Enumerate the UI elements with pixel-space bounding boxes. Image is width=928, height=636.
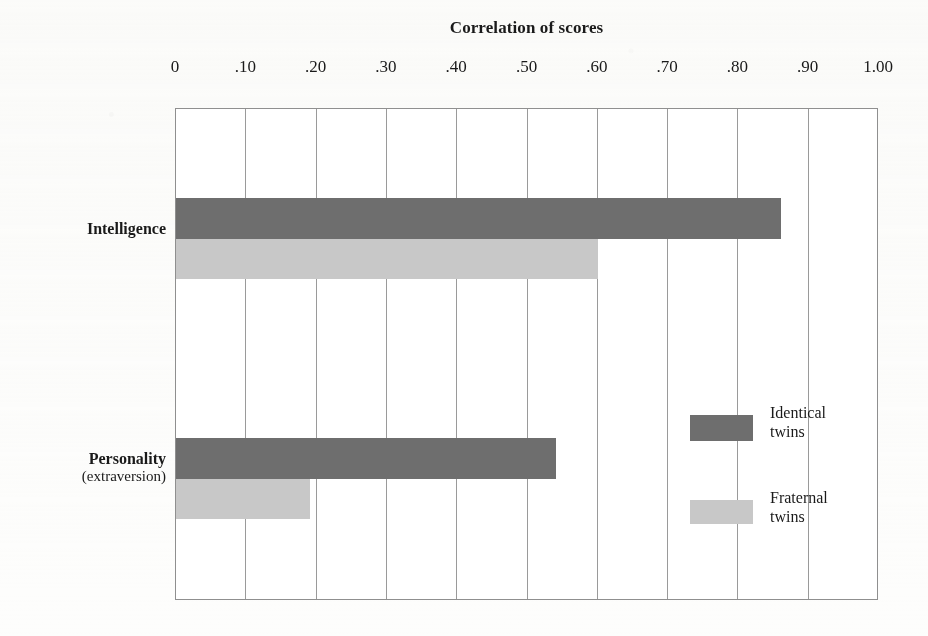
category-label-main: Personality <box>82 450 166 468</box>
legend-label-line2: twins <box>770 423 805 440</box>
bar-identical-personality <box>176 438 556 479</box>
x-tick-label-p70: .70 <box>656 56 677 78</box>
x-tick-label-p50: .50 <box>516 56 537 78</box>
gridline-p10 <box>245 109 246 599</box>
chart-title: Correlation of scores <box>175 18 878 38</box>
category-label-intelligence: Intelligence <box>87 220 166 238</box>
x-tick-label-p10: .10 <box>235 56 256 78</box>
x-tick-label-p60: .60 <box>586 56 607 78</box>
x-tick-label-p20: .20 <box>305 56 326 78</box>
legend-swatch-identical <box>690 415 753 441</box>
gridline-p30 <box>386 109 387 599</box>
gridline-p60 <box>597 109 598 599</box>
gridline-p40 <box>456 109 457 599</box>
bar-fraternal-intelligence <box>176 239 598 279</box>
x-axis-tick-labels: 0.10.20.30.40.50.60.70.80.901.00 <box>0 56 928 82</box>
legend-label-line1: Fraternal <box>770 489 828 506</box>
x-tick-label-p80: .80 <box>727 56 748 78</box>
x-tick-label-p30: .30 <box>375 56 396 78</box>
bar-identical-intelligence <box>176 198 781 239</box>
legend-swatch-fraternal <box>690 500 753 524</box>
gridline-p80 <box>737 109 738 599</box>
legend-label-line2: twins <box>770 508 805 525</box>
x-tick-label-p40: .40 <box>446 56 467 78</box>
legend-label-fraternal: Fraternal twins <box>770 489 828 527</box>
bar-fraternal-personality <box>176 479 310 519</box>
category-label-personality: Personality (extraversion) <box>82 450 166 485</box>
legend-label-identical: Identical twins <box>770 404 826 442</box>
gridline-p50 <box>527 109 528 599</box>
x-tick-label-1p00: 1.00 <box>863 56 893 78</box>
category-label-main: Intelligence <box>87 220 166 238</box>
legend-label-line1: Identical <box>770 404 826 421</box>
x-tick-label-p90: .90 <box>797 56 818 78</box>
x-tick-label-0: 0 <box>171 56 180 78</box>
gridline-p20 <box>316 109 317 599</box>
gridline-p70 <box>667 109 668 599</box>
chart-page: Correlation of scores 0.10.20.30.40.50.6… <box>0 0 928 636</box>
category-label-sub: (extraversion) <box>82 468 166 485</box>
